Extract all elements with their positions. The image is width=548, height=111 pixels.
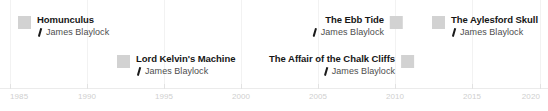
event-byline: James Blaylock xyxy=(136,65,208,77)
event-byline: James Blaylock xyxy=(312,26,384,38)
gridline xyxy=(10,0,11,88)
event-byline: James Blaylock xyxy=(323,65,395,77)
event-text: The Ebb TideJames Blaylock xyxy=(312,14,384,38)
pen-nib-icon xyxy=(451,28,457,37)
event-marker-square[interactable] xyxy=(18,16,31,29)
event-marker-square[interactable] xyxy=(401,55,414,68)
gridline xyxy=(241,0,242,88)
timeline-event[interactable]: The Ebb TideJames Blaylock xyxy=(312,14,403,38)
event-author: James Blaylock xyxy=(460,26,523,38)
event-title: Homunculus xyxy=(37,14,94,26)
axis-label-1990: 1990 xyxy=(78,92,96,101)
event-author: James Blaylock xyxy=(46,26,109,38)
event-author: James Blaylock xyxy=(321,26,384,38)
axis-tick xyxy=(318,84,319,89)
timeline-event[interactable]: The Aylesford SkullJames Blaylock xyxy=(432,14,538,38)
event-title: The Affair of the Chalk Cliffs xyxy=(269,53,395,65)
axis-label-2020: 2020 xyxy=(522,92,540,101)
event-marker-square[interactable] xyxy=(117,55,130,68)
event-title: The Aylesford Skull xyxy=(451,14,538,26)
axis-label-1995: 1995 xyxy=(155,92,173,101)
axis-tick xyxy=(10,84,11,89)
event-byline: James Blaylock xyxy=(451,26,523,38)
axis-tick xyxy=(540,84,541,89)
axis-tick xyxy=(241,84,242,89)
pen-nib-icon xyxy=(37,28,43,37)
event-author: James Blaylock xyxy=(145,65,208,77)
timeline-event[interactable]: The Affair of the Chalk CliffsJames Blay… xyxy=(269,53,414,77)
event-title: The Ebb Tide xyxy=(325,14,384,26)
axis-label-2005: 2005 xyxy=(309,92,327,101)
event-text: The Aylesford SkullJames Blaylock xyxy=(451,14,538,38)
axis-label-2015: 2015 xyxy=(463,92,481,101)
event-marker-square[interactable] xyxy=(432,16,445,29)
axis-tick xyxy=(395,84,396,89)
axis-label-1985: 1985 xyxy=(10,92,28,101)
pen-nib-icon xyxy=(312,28,318,37)
book-timeline-chart: 19851990199520002005201020152020 Homuncu… xyxy=(0,0,548,111)
axis-label-2010: 2010 xyxy=(386,92,404,101)
event-text: Lord Kelvin's MachineJames Blaylock xyxy=(136,53,235,77)
gridline xyxy=(540,0,541,88)
timeline-event[interactable]: HomunculusJames Blaylock xyxy=(18,14,109,38)
event-title: Lord Kelvin's Machine xyxy=(136,53,235,65)
event-byline: James Blaylock xyxy=(37,26,109,38)
axis-tick xyxy=(472,84,473,89)
event-text: HomunculusJames Blaylock xyxy=(37,14,109,38)
pen-nib-icon xyxy=(323,67,329,76)
pen-nib-icon xyxy=(136,67,142,76)
event-author: James Blaylock xyxy=(332,65,395,77)
axis-label-2000: 2000 xyxy=(232,92,250,101)
axis-tick xyxy=(164,84,165,89)
axis-tick xyxy=(87,84,88,89)
timeline-event[interactable]: Lord Kelvin's MachineJames Blaylock xyxy=(117,53,235,77)
event-text: The Affair of the Chalk CliffsJames Blay… xyxy=(269,53,395,77)
timeline-axis-line xyxy=(0,88,548,89)
event-marker-square[interactable] xyxy=(390,16,403,29)
